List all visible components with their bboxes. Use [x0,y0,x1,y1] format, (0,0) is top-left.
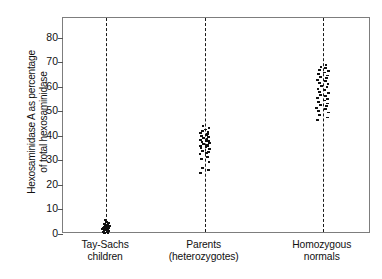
data-point [324,67,327,69]
category-label-line-1: Homozygous [292,239,351,250]
data-point [327,92,330,94]
data-point [202,125,205,127]
data-point [316,79,319,81]
data-point [207,131,210,133]
chart-figure: Hexosaminidase A as percentage of total … [0,0,382,279]
data-point [202,137,205,139]
data-point [324,89,327,91]
data-point [208,127,211,129]
data-point [326,98,329,100]
data-point [207,136,210,138]
data-point [320,66,323,68]
y-axis-tick-mark [58,185,63,186]
data-point [207,151,210,153]
category-label-line-2: (heterozygotes) [144,251,264,263]
data-point [317,101,320,103]
data-point [318,82,321,84]
y-axis-tick-mark [58,62,63,63]
data-point [327,112,330,114]
data-point [324,95,327,97]
data-point [103,223,106,225]
x-axis-category-label-1: Parents(heterozygotes) [144,239,264,264]
data-point [319,76,322,78]
data-point [316,119,319,121]
y-axis-tick-label: 70 [32,56,58,67]
data-point [323,72,326,74]
y-axis-tick-labels: 01020304050607080 [32,0,58,279]
y-axis-tick-label: 80 [32,32,58,43]
data-point [315,107,318,109]
category-dashed-line-1 [205,18,206,232]
category-dashed-line-0 [106,18,107,232]
category-dashed-line-2 [323,18,324,232]
y-axis-tick-mark [58,87,63,88]
data-point [104,219,107,221]
data-point [320,85,323,87]
data-point [326,75,329,77]
data-point [324,80,327,82]
data-point [208,161,211,163]
data-point [201,150,204,152]
data-point [316,97,319,99]
data-point [318,69,321,71]
data-point [199,153,202,155]
y-axis-tick-label: 50 [32,105,58,116]
data-point [199,139,202,141]
data-point [318,91,321,93]
data-point [324,108,327,110]
data-point [317,110,320,112]
data-point [200,158,203,160]
data-point [208,148,211,150]
data-point [199,132,202,134]
x-axis-category-label-2: Homozygousnormals [262,239,382,264]
data-point [199,145,202,147]
data-point [327,83,330,85]
data-point [201,141,204,143]
data-point [325,105,328,107]
plot-area [62,17,370,233]
x-axis-category-labels: Tay-SachschildrenParents(heterozygotes)H… [62,239,370,279]
data-point [326,103,329,105]
data-point [206,133,209,135]
category-label-line-2: normals [262,251,382,263]
y-axis-tick-mark [58,38,63,39]
y-axis-tick-label: 20 [32,179,58,190]
data-point [199,172,202,174]
data-point [317,73,320,75]
data-point [107,224,110,226]
data-point [317,88,320,90]
data-point [208,142,211,144]
data-point [200,147,203,149]
y-axis-tick-mark [58,111,63,112]
data-point [319,94,322,96]
data-point [200,135,203,137]
y-axis-tick-mark [58,234,63,235]
data-point [201,130,204,132]
data-point [326,86,329,88]
category-label-line-1: Parents [186,239,221,250]
data-point [325,77,328,79]
data-point [326,117,329,119]
y-axis-tick-label: 30 [32,154,58,165]
data-point [325,64,328,66]
data-point [327,70,330,72]
data-point [201,167,204,169]
data-point [207,169,210,171]
y-axis-tick-mark [58,160,63,161]
y-axis-tick-label: 40 [32,130,58,141]
y-axis-tick-mark [58,209,63,210]
y-axis-tick-label: 10 [32,203,58,214]
data-point [319,104,322,106]
data-point [207,140,210,142]
y-axis-tick-label: 0 [32,228,58,239]
y-axis-tick-mark [58,136,63,137]
y-axis-tick-label: 60 [32,81,58,92]
data-point [318,114,321,116]
data-point [206,138,209,140]
category-label-line-1: Tay-Sachs [82,239,129,250]
data-point [206,156,209,158]
